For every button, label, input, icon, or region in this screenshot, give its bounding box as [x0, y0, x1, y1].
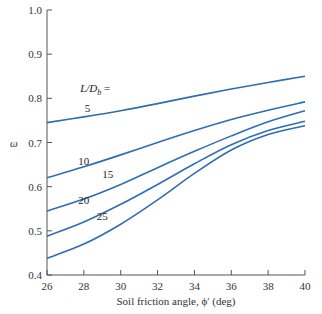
x-tick-label: 40 — [300, 280, 312, 292]
curve-label-20: 20 — [78, 194, 90, 206]
axes: 26283032343638400.40.50.60.70.80.91.0Soi… — [10, 4, 311, 308]
y-tick-label: 0.6 — [28, 181, 42, 193]
curve-label-15: 15 — [102, 168, 114, 180]
x-tick-label: 26 — [42, 280, 54, 292]
y-tick-label: 1.0 — [28, 4, 42, 16]
labels: 510152025L/Db = — [78, 82, 113, 222]
y-tick-label: 0.9 — [28, 48, 42, 60]
x-tick-label: 36 — [226, 280, 238, 292]
x-tick-label: 32 — [152, 280, 163, 292]
curve-ld-20 — [47, 121, 305, 236]
y-tick-label: 0.5 — [28, 225, 42, 237]
curve-label-25: 25 — [97, 210, 109, 222]
x-tick-label: 38 — [263, 280, 275, 292]
x-tick-label: 30 — [115, 280, 127, 292]
y-tick-label: 0.7 — [28, 137, 42, 149]
curve-ld-25 — [47, 126, 305, 259]
y-tick-label: 0.4 — [28, 269, 42, 281]
legend-title: L/Db = — [79, 82, 110, 97]
x-tick-label: 28 — [78, 280, 90, 292]
y-tick-label: 0.8 — [28, 92, 42, 104]
x-tick-label: 34 — [189, 280, 201, 292]
chart: 26283032343638400.40.50.60.70.80.91.0Soi… — [0, 0, 322, 314]
y-axis-label: ω — [10, 137, 18, 149]
curve-label-10: 10 — [78, 155, 90, 167]
curve-label-5: 5 — [85, 102, 91, 114]
x-axis-label: Soil friction angle, ϕ′ (deg) — [116, 295, 235, 308]
